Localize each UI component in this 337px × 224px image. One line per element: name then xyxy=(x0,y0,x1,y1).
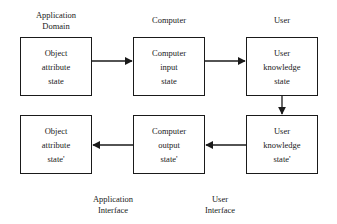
label-user-interface: User Interface xyxy=(195,194,245,215)
label-application-interface-line2: Interface xyxy=(82,205,144,216)
label-application-interface-line1: Application xyxy=(82,194,144,205)
label-application-interface: Application Interface xyxy=(82,194,144,215)
label-user-interface-line2: Interface xyxy=(195,205,245,216)
arrows-layer xyxy=(0,0,337,224)
label-user-interface-line1: User xyxy=(195,194,245,205)
